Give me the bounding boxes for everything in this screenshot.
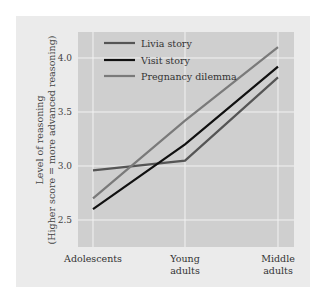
y-axis-sublabel: (Higher score = more advanced reasoning) [46,36,57,245]
legend-label: Livia story [141,38,192,49]
x-tick-label: Adolescents [63,253,122,264]
x-tick-label: Young [169,253,199,264]
y-axis-label: Level of reasoning [34,95,45,184]
x-tick-label: adults [170,265,200,276]
legend-label: Pregnancy dilemma [141,71,237,82]
y-tick-label: 3.0 [58,161,73,171]
x-tick-label: adults [263,265,293,276]
y-tick-label: 3.5 [58,107,73,117]
y-tick-label: 2.5 [58,215,73,225]
line-chart: 2.5 3.0 3.5 4.0 Level of reasoning (High… [0,0,325,300]
y-tick-label: 4.0 [58,53,73,63]
legend-label: Visit story [140,55,190,66]
x-tick-label: Middle [261,253,295,264]
